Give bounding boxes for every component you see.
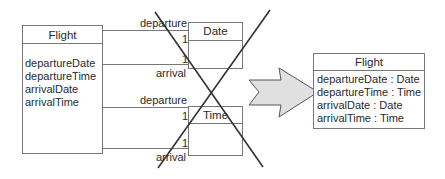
flight-refactored-class-name: Flight: [313, 56, 425, 68]
flight-attribute: departureTime: [25, 70, 96, 83]
date-departure-role: departure: [140, 17, 187, 29]
flight-attribute: arrivalTime: [25, 96, 79, 109]
transform-arrow-icon: [249, 68, 318, 117]
time-arrival-role: arrival: [156, 151, 186, 163]
time-class-name: Time: [188, 109, 243, 121]
flight-class-name: Flight: [22, 29, 103, 41]
flight-refactored-attribute: departureDate : Date: [317, 73, 420, 86]
flight-refactored-attribute: departureTime : Time: [317, 86, 421, 99]
date-class-name: Date: [188, 25, 243, 37]
date-departure-multiplicity: 1: [182, 33, 188, 45]
flight-attribute: arrivalDate: [25, 83, 78, 96]
flight-refactored-attribute: arrivalDate : Date: [317, 99, 403, 112]
flight-refactored-attribute: arrivalTime : Time: [317, 112, 404, 125]
time-departure-multiplicity: 1: [182, 110, 188, 122]
date-arrival-role: arrival: [156, 67, 186, 79]
time-arrival-multiplicity: 1: [182, 137, 188, 149]
flight-attribute: departureDate: [25, 57, 95, 70]
date-arrival-multiplicity: 1: [182, 53, 188, 65]
time-departure-role: departure: [140, 94, 187, 106]
